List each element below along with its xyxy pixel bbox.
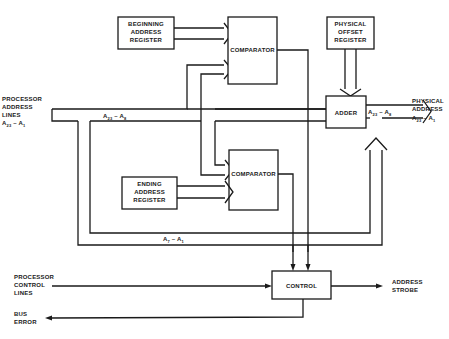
control-label: CONTROL [286, 283, 317, 289]
svg-text:ERROR: ERROR [14, 319, 37, 325]
address-strobe-output [331, 284, 383, 289]
svg-text:PHYSICAL: PHYSICAL [412, 98, 444, 104]
adder-output-bus-label: A23 – A8 [368, 109, 392, 117]
beginning-register-label-3: REGISTER [130, 37, 163, 43]
ending-register-label-3: REGISTER [133, 197, 166, 203]
bottom-comparator-output-line [278, 174, 293, 252]
top-comparator-label: COMPARATOR [230, 47, 275, 53]
beginning-to-comparator-bus [174, 23, 232, 44]
svg-text:ADDRESS: ADDRESS [2, 104, 33, 110]
svg-text:PROCESSOR: PROCESSOR [14, 274, 55, 280]
address-strobe-label: ADDRESS STROBE [392, 279, 423, 293]
adder: ADDER [326, 96, 366, 128]
bus-error-output [45, 299, 303, 321]
ending-register-label-1: ENDING [137, 181, 162, 187]
processor-control-input [52, 284, 272, 289]
svg-text:ADDRESS: ADDRESS [412, 106, 443, 112]
adder-label: ADDER [335, 110, 358, 116]
bottom-comparator-label: COMPARATOR [231, 171, 276, 177]
svg-text:STROBE: STROBE [392, 287, 418, 293]
beginning-register-label-2: ADDRESS [131, 29, 162, 35]
comparator-to-control-arrows [291, 245, 311, 271]
offset-register-label-2: OFFSET [338, 29, 363, 35]
svg-text:BUS: BUS [14, 311, 27, 317]
beginning-register-label-1: BEGINNING [128, 21, 164, 27]
bus-error-label: BUS ERROR [14, 311, 37, 325]
svg-text:CONTROL: CONTROL [14, 282, 45, 288]
svg-text:LINES: LINES [2, 112, 21, 118]
processor-address-bus [52, 65, 382, 245]
lower-bus-label: A7 – A1 [163, 236, 185, 244]
mmu-block-diagram: BEGINNING ADDRESS REGISTER COMPARATOR PH… [0, 0, 449, 339]
ending-address-register: ENDING ADDRESS REGISTER [122, 177, 177, 209]
control-block: CONTROL [272, 271, 331, 299]
physical-offset-register: PHYSICAL OFFSET REGISTER [327, 17, 374, 49]
ending-to-comparator-bus [177, 181, 233, 203]
bottom-comparator: COMPARATOR [229, 150, 278, 210]
top-comparator: COMPARATOR [228, 17, 277, 84]
physical-address-label: PHYSICAL ADDRESS A23 – A1 [412, 98, 444, 123]
beginning-address-register: BEGINNING ADDRESS REGISTER [118, 17, 174, 49]
ending-register-label-2: ADDRESS [134, 189, 165, 195]
processor-address-lines-label: PROCESSOR ADDRESS LINES A23 – A1 [2, 96, 43, 128]
offset-register-label-3: REGISTER [334, 37, 367, 43]
processor-control-lines-label: PROCESSOR CONTROL LINES [14, 274, 55, 296]
svg-text:PROCESSOR: PROCESSOR [2, 96, 43, 102]
svg-text:ADDRESS: ADDRESS [392, 279, 423, 285]
offset-register-label-1: PHYSICAL [335, 21, 367, 27]
processor-address-range: A23 – A1 [2, 120, 26, 128]
upper-bus-label: A23 – A8 [103, 113, 127, 121]
lower-bus-merge-arrow [365, 138, 387, 150]
offset-to-adder-bus [340, 49, 361, 96]
svg-text:LINES: LINES [14, 290, 33, 296]
